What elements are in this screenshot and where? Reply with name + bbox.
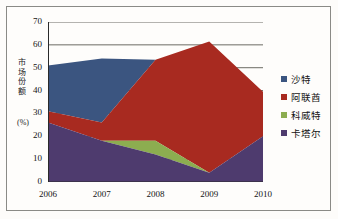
legend-item-label: 科威特 bbox=[291, 108, 321, 122]
legend-item-卡塔尔[interactable]: 卡塔尔 bbox=[281, 124, 335, 142]
legend-item-label: 卡塔尔 bbox=[291, 126, 321, 140]
legend-swatch-icon bbox=[281, 94, 287, 100]
x-tick-label-2009: 2009 bbox=[194, 189, 224, 199]
legend-swatch-icon bbox=[281, 112, 287, 118]
stacked-area-chart bbox=[48, 22, 263, 182]
y-tick-label-40: 40 bbox=[26, 85, 42, 95]
legend-item-沙特[interactable]: 沙特 bbox=[281, 70, 335, 88]
legend-item-阿联酋[interactable]: 阿联酋 bbox=[281, 88, 335, 106]
y-tick-label-60: 60 bbox=[26, 39, 42, 49]
legend-item-科威特[interactable]: 科威特 bbox=[281, 106, 335, 124]
legend-item-label: 沙特 bbox=[291, 72, 311, 86]
x-tick-label-2008: 2008 bbox=[141, 189, 171, 199]
y-axis-unit-label: (%) bbox=[10, 118, 36, 127]
plot-area bbox=[48, 22, 263, 182]
x-tick-label-2010: 2010 bbox=[248, 189, 278, 199]
y-tick-label-20: 20 bbox=[26, 130, 42, 140]
y-tick-label-30: 30 bbox=[26, 107, 42, 117]
x-tick-label-2007: 2007 bbox=[87, 189, 117, 199]
y-tick-label-50: 50 bbox=[26, 62, 42, 72]
chart-legend: 沙特阿联酋科威特卡塔尔 bbox=[281, 70, 335, 142]
x-tick-label-2006: 2006 bbox=[33, 189, 63, 199]
y-tick-label-70: 70 bbox=[26, 16, 42, 26]
legend-swatch-icon bbox=[281, 130, 287, 136]
chart-screenshot: 市 场 份 额 (%) 010203040506070 200620072008… bbox=[0, 0, 338, 219]
y-tick-label-10: 10 bbox=[26, 153, 42, 163]
y-tick-label-0: 0 bbox=[26, 176, 42, 186]
legend-swatch-icon bbox=[281, 76, 287, 82]
legend-item-label: 阿联酋 bbox=[291, 90, 321, 104]
